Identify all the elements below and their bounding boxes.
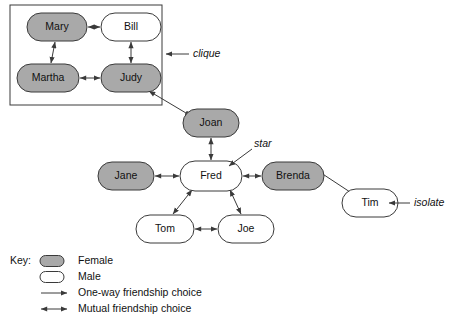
node-label-joe: Joe	[238, 222, 255, 234]
node-martha[interactable]: Martha	[17, 64, 79, 92]
key-item-one-way: One-way friendship choice	[41, 286, 202, 298]
node-jane[interactable]: Jane	[98, 162, 154, 190]
node-fred[interactable]: Fred	[180, 161, 242, 191]
annotation-label-clique: clique	[193, 47, 221, 59]
node-label-bill: Bill	[124, 20, 138, 32]
key-legend: Key:FemaleMaleOne-way friendship choiceM…	[10, 254, 202, 314]
key-label-female: Female	[78, 254, 113, 266]
key-title: Key:	[10, 254, 31, 266]
node-label-tim: Tim	[361, 196, 378, 208]
edge-fred-tom	[173, 190, 192, 214]
node-joe[interactable]: Joe	[218, 215, 274, 243]
key-swatch-female-icon	[40, 256, 64, 267]
node-label-mary: Mary	[45, 20, 69, 32]
node-judy[interactable]: Judy	[101, 64, 161, 92]
edge-judy-joan	[149, 91, 191, 116]
key-label-mutual: Mutual friendship choice	[78, 302, 191, 314]
edge-fred-joe	[230, 190, 241, 214]
node-label-tom: Tom	[155, 222, 175, 234]
key-swatch-male-icon	[40, 272, 64, 283]
node-label-brenda: Brenda	[276, 169, 310, 181]
key-item-male: Male	[40, 270, 101, 283]
node-tom[interactable]: Tom	[136, 215, 194, 243]
key-label-male: Male	[78, 270, 101, 282]
node-brenda[interactable]: Brenda	[262, 162, 324, 190]
annotation-star: star	[229, 137, 272, 166]
annotation-clique: clique	[166, 47, 221, 59]
edge-mary-martha	[51, 42, 55, 63]
annotation-label-star: star	[254, 137, 272, 149]
node-label-judy: Judy	[120, 71, 143, 83]
node-label-martha: Martha	[32, 71, 65, 83]
node-label-joan: Joan	[200, 116, 223, 128]
node-joan[interactable]: Joan	[183, 109, 239, 137]
node-label-jane: Jane	[115, 169, 138, 181]
annotation-label-isolate: isolate	[414, 196, 445, 208]
key-item-female: Female	[40, 254, 113, 267]
key-item-mutual: Mutual friendship choice	[41, 302, 191, 314]
sociogram-diagram: MaryBillMarthaJudyJoanJaneFredBrendaTimT…	[0, 0, 457, 325]
annotation-leader-star	[229, 149, 252, 166]
node-bill[interactable]: Bill	[101, 13, 161, 41]
node-label-fred: Fred	[200, 169, 222, 181]
key-label-one-way: One-way friendship choice	[78, 286, 202, 298]
node-mary[interactable]: Mary	[27, 13, 87, 41]
